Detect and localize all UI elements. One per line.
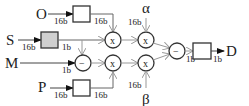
- register-d: [193, 43, 211, 59]
- beta-label: β: [142, 91, 150, 106]
- svg-text:x: x: [143, 35, 148, 46]
- register-s: [41, 32, 58, 48]
- o-out-width: 16b: [94, 16, 108, 26]
- input-p: P 16b 16b: [38, 72, 113, 100]
- dataflow-diagram: O 16b 16b S 16b 1b M 1b P 16b 16b −: [0, 0, 249, 106]
- multiply-node-bottom-1: x: [105, 55, 138, 71]
- s-in-width: 16b: [22, 42, 36, 52]
- alpha-width: 16b: [128, 17, 142, 27]
- multiply-node-top-1: x: [105, 32, 138, 48]
- input-m: M 1b: [5, 55, 75, 75]
- alpha-label: α: [142, 0, 150, 16]
- input-s-label: S: [6, 32, 14, 48]
- input-p-label: P: [38, 79, 46, 95]
- s-out-width: 1b: [62, 42, 72, 52]
- output-d-label: D: [226, 43, 237, 59]
- output-d: 1b D: [193, 43, 237, 64]
- svg-text:x: x: [110, 58, 115, 69]
- param-alpha: α 16b: [128, 0, 150, 32]
- input-s: S 16b 1b: [6, 32, 105, 55]
- m-in-width: 1b: [62, 65, 72, 75]
- register-o: [73, 6, 90, 22]
- d-out-width: 1b: [213, 54, 223, 64]
- input-o-label: O: [36, 6, 47, 22]
- p-in-width: 16b: [54, 90, 68, 100]
- input-m-label: M: [5, 55, 18, 71]
- svg-text:−: −: [79, 58, 85, 69]
- o-in-width: 16b: [54, 16, 68, 26]
- subtract-node-2: − 1b: [169, 43, 196, 64]
- p-out-width: 16b: [94, 90, 108, 100]
- beta-width: 16b: [128, 80, 142, 90]
- multiply-node-top-2: x: [138, 32, 170, 48]
- param-beta: β 16b: [128, 71, 150, 106]
- svg-text:x: x: [143, 58, 148, 69]
- subtract-node-1: −: [75, 55, 105, 71]
- multiply-node-bottom-2: x: [138, 54, 170, 71]
- register-p: [73, 80, 90, 96]
- input-o: O 16b 16b: [36, 6, 113, 32]
- svg-text:x: x: [110, 35, 115, 46]
- svg-text:−: −: [173, 46, 179, 57]
